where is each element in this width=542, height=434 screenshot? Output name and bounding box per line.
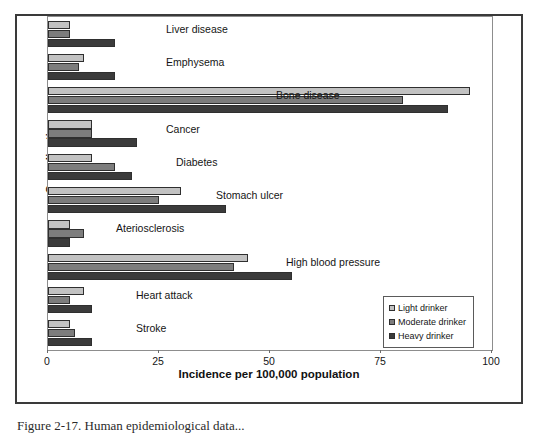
bar-group-label: Bone disease — [276, 90, 340, 101]
bar-moderate — [48, 196, 159, 204]
bar-light — [48, 220, 70, 228]
bar-group-label: Cancer — [166, 124, 200, 135]
bar-light — [48, 187, 181, 195]
bar-light — [48, 154, 92, 162]
bar-heavy — [48, 272, 292, 280]
bar-moderate — [48, 96, 403, 104]
bar-group-label: Stomach ulcer — [216, 190, 283, 201]
bar-moderate — [48, 129, 92, 137]
bar-group: Emphysema — [48, 50, 492, 83]
legend-label: Light drinker — [398, 304, 448, 313]
bar-moderate — [48, 329, 75, 337]
x-axis-tick — [269, 350, 270, 353]
bar-heavy — [48, 39, 115, 47]
bar-group: High blood pressure — [48, 250, 492, 283]
x-axis-tick — [47, 350, 48, 353]
bar-heavy — [48, 105, 448, 113]
bar-heavy — [48, 238, 70, 246]
bar-moderate — [48, 263, 234, 271]
bar-group: Diabetes — [48, 150, 492, 183]
legend-item: Heavy drinker — [389, 330, 466, 342]
bar-heavy — [48, 205, 226, 213]
legend-swatch-moderate — [389, 319, 395, 325]
bar-group: Cancer — [48, 117, 492, 150]
x-axis-tick — [158, 350, 159, 353]
bar-moderate — [48, 30, 70, 38]
bar-light — [48, 120, 92, 128]
legend-item: Light drinker — [389, 302, 466, 314]
bar-light — [48, 21, 70, 29]
x-axis-tick-label: 75 — [374, 355, 386, 367]
legend-label: Moderate drinker — [398, 318, 466, 327]
bar-heavy — [48, 305, 92, 313]
legend-item: Moderate drinker — [389, 316, 466, 328]
bar-group-label: Heart attack — [136, 290, 193, 301]
bar-group-label: Diabetes — [176, 157, 217, 168]
legend-swatch-heavy — [389, 333, 395, 339]
bar-moderate — [48, 163, 115, 171]
bar-light — [48, 54, 84, 62]
x-axis-tick — [491, 350, 492, 353]
bar-light — [48, 320, 70, 328]
bar-group: Ateriosclerosis — [48, 217, 492, 250]
x-axis-tick-label: 50 — [263, 355, 275, 367]
x-axis-title: Incidence per 100,000 population — [47, 368, 491, 380]
bar-group: Stomach ulcer — [48, 184, 492, 217]
bar-heavy — [48, 138, 137, 146]
bar-moderate — [48, 63, 79, 71]
x-axis-tick-label: 0 — [44, 355, 50, 367]
x-axis-tick-label: 100 — [482, 355, 500, 367]
bar-moderate — [48, 296, 70, 304]
bar-group-label: Liver disease — [166, 24, 228, 35]
x-axis: 0255075100 — [47, 350, 491, 351]
bar-heavy — [48, 338, 92, 346]
bar-group-label: Stroke — [136, 323, 166, 334]
figure-caption: Figure 2-17. Human epidemiological data.… — [17, 418, 527, 434]
bar-group: Liver disease — [48, 17, 492, 50]
bar-heavy — [48, 72, 115, 80]
x-axis-tick-label: 25 — [152, 355, 164, 367]
legend-swatch-light — [389, 305, 395, 311]
bar-heavy — [48, 172, 132, 180]
bar-group-label: Emphysema — [166, 57, 224, 68]
legend-label: Heavy drinker — [398, 332, 454, 341]
chart-legend: Light drinkerModerate drinkerHeavy drink… — [383, 296, 474, 348]
bar-moderate — [48, 229, 84, 237]
bar-group: Bone disease — [48, 84, 492, 117]
bar-group-label: Ateriosclerosis — [116, 223, 184, 234]
bar-light — [48, 254, 248, 262]
bar-light — [48, 87, 470, 95]
bar-light — [48, 287, 84, 295]
x-axis-tick — [380, 350, 381, 353]
bar-group-label: High blood pressure — [286, 257, 380, 268]
